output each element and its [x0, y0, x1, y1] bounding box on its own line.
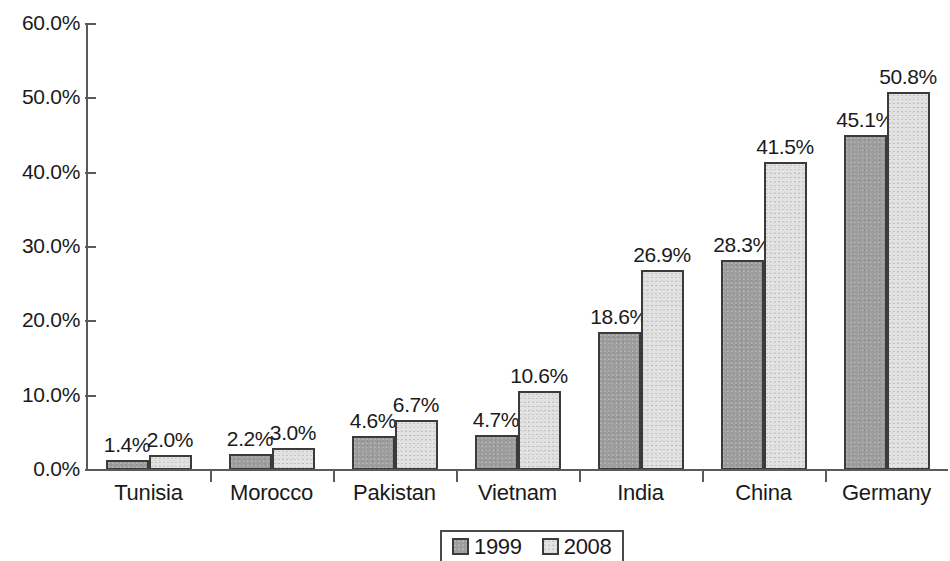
bar [395, 420, 438, 470]
bar-value-label: 41.5% [742, 135, 828, 159]
bar-chart: 60.0%50.0%40.0%30.0%20.0%10.0%0.0% 1.4%2… [0, 0, 950, 561]
x-axis-group-tick [579, 471, 581, 482]
bar-value-label: 6.7% [373, 393, 459, 417]
bar-value-label: 3.0% [250, 421, 336, 445]
bar-value-label: 2.0% [127, 428, 213, 452]
plot-area: 1.4%2.0%2.2%3.0%4.6%6.7%4.7%10.6%18.6%26… [0, 0, 950, 561]
bar-value-label: 26.9% [619, 243, 705, 267]
x-axis-category-label: Vietnam [456, 480, 579, 506]
legend-entry-2008: 2008 [542, 534, 612, 560]
x-axis-category-label: China [702, 480, 825, 506]
bar-value-label: 10.6% [496, 364, 582, 388]
x-axis-group-tick [825, 471, 827, 482]
dark-gray-swatch-icon [452, 538, 469, 555]
x-axis-category-label: Germany [825, 480, 948, 506]
bar [518, 391, 561, 470]
light-gray-swatch-icon [542, 538, 559, 555]
x-axis-category-label: Tunisia [87, 480, 210, 506]
bar-value-label: 50.8% [865, 65, 950, 89]
bar [475, 435, 518, 470]
x-axis-group-tick [456, 471, 458, 482]
legend-label: 2008 [564, 534, 612, 560]
bar [149, 455, 192, 470]
x-axis-category-label: India [579, 480, 702, 506]
bar [229, 454, 272, 470]
legend-entry-1999: 1999 [452, 534, 522, 560]
x-axis-category-label: Pakistan [333, 480, 456, 506]
x-axis-line [86, 469, 948, 471]
x-axis-group-tick [702, 471, 704, 482]
bar [352, 436, 395, 470]
bar [764, 162, 807, 470]
x-axis-category-label: Morocco [210, 480, 333, 506]
bar [272, 448, 315, 470]
bar [844, 135, 887, 470]
bar [721, 260, 764, 470]
x-axis-group-tick [333, 471, 335, 482]
bar [887, 92, 930, 470]
bar [641, 270, 684, 470]
legend-label: 1999 [474, 534, 522, 560]
bar [598, 332, 641, 470]
x-axis-group-tick [210, 471, 212, 482]
legend: 1999 2008 [440, 530, 624, 561]
